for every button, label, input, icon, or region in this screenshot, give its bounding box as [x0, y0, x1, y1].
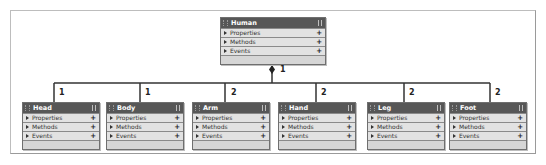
add-icon[interactable]: +	[174, 123, 180, 131]
events-row[interactable]: Events+	[368, 131, 444, 140]
row-label: Events	[230, 47, 250, 54]
methods-row[interactable]: Methods+	[107, 122, 183, 131]
expand-triangle-icon[interactable]	[453, 116, 456, 120]
class-header[interactable]: Body	[107, 103, 183, 113]
events-row[interactable]: Events+	[279, 131, 355, 140]
add-icon[interactable]: +	[316, 47, 322, 55]
grip-icon[interactable]	[370, 105, 375, 111]
events-row[interactable]: Events+	[107, 131, 183, 140]
expand-triangle-icon[interactable]	[196, 116, 199, 120]
add-icon[interactable]: +	[90, 123, 96, 131]
expand-triangle-icon[interactable]	[224, 49, 227, 53]
row-label: Events	[377, 132, 397, 139]
events-row[interactable]: Events+	[23, 131, 99, 140]
class-header[interactable]: Arm	[193, 103, 269, 113]
menu-icon[interactable]	[176, 105, 180, 111]
multiplicity-label-root: 1	[280, 65, 286, 75]
expand-triangle-icon[interactable]	[371, 134, 374, 138]
add-icon[interactable]: +	[260, 132, 266, 140]
add-icon[interactable]: +	[517, 123, 523, 131]
add-icon[interactable]: +	[90, 114, 96, 122]
expand-triangle-icon[interactable]	[224, 40, 227, 44]
add-icon[interactable]: +	[435, 132, 441, 140]
events-row[interactable]: Events+	[450, 131, 526, 140]
menu-icon[interactable]	[437, 105, 441, 111]
row-label: Events	[288, 132, 308, 139]
class-box-arm[interactable]: Arm Properties+ Methods+ Events+	[192, 102, 270, 150]
class-name: Foot	[460, 104, 476, 112]
aggregation-diamond-icon	[269, 65, 275, 74]
add-icon[interactable]: +	[346, 123, 352, 131]
expand-triangle-icon[interactable]	[371, 125, 374, 129]
expand-triangle-icon[interactable]	[453, 134, 456, 138]
multiplicity-label-head: 1	[59, 88, 65, 98]
menu-icon[interactable]	[519, 105, 523, 111]
methods-row[interactable]: Methods+	[450, 122, 526, 131]
methods-row[interactable]: Methods+	[193, 122, 269, 131]
properties-row[interactable]: Properties+	[107, 113, 183, 122]
add-icon[interactable]: +	[346, 132, 352, 140]
expand-triangle-icon[interactable]	[196, 125, 199, 129]
add-icon[interactable]: +	[260, 114, 266, 122]
methods-row[interactable]: Methods+	[221, 37, 325, 46]
add-icon[interactable]: +	[90, 132, 96, 140]
expand-triangle-icon[interactable]	[453, 125, 456, 129]
grip-icon[interactable]	[452, 105, 457, 111]
expand-triangle-icon[interactable]	[110, 125, 113, 129]
add-icon[interactable]: +	[174, 132, 180, 140]
properties-row[interactable]: Properties+	[279, 113, 355, 122]
expand-triangle-icon[interactable]	[26, 134, 29, 138]
grip-icon[interactable]	[223, 20, 228, 26]
methods-row[interactable]: Methods+	[368, 122, 444, 131]
add-icon[interactable]: +	[517, 114, 523, 122]
grip-icon[interactable]	[195, 105, 200, 111]
properties-row[interactable]: Properties+	[23, 113, 99, 122]
menu-icon[interactable]	[318, 20, 322, 26]
add-icon[interactable]: +	[435, 114, 441, 122]
class-box-leg[interactable]: Leg Properties+ Methods+ Events+	[367, 102, 445, 150]
grip-icon[interactable]	[25, 105, 30, 111]
class-header[interactable]: Foot	[450, 103, 526, 113]
add-icon[interactable]: +	[346, 114, 352, 122]
events-row[interactable]: Events+	[221, 46, 325, 55]
expand-triangle-icon[interactable]	[110, 116, 113, 120]
properties-row[interactable]: Properties+	[450, 113, 526, 122]
class-name: Leg	[378, 104, 391, 112]
add-icon[interactable]: +	[316, 29, 322, 37]
menu-icon[interactable]	[348, 105, 352, 111]
class-header[interactable]: Human	[221, 18, 325, 28]
properties-row[interactable]: Properties+	[193, 113, 269, 122]
expand-triangle-icon[interactable]	[26, 125, 29, 129]
expand-triangle-icon[interactable]	[282, 125, 285, 129]
expand-triangle-icon[interactable]	[224, 31, 227, 35]
events-row[interactable]: Events+	[193, 131, 269, 140]
class-header[interactable]: Leg	[368, 103, 444, 113]
add-icon[interactable]: +	[435, 123, 441, 131]
grip-icon[interactable]	[281, 105, 286, 111]
expand-triangle-icon[interactable]	[196, 134, 199, 138]
add-icon[interactable]: +	[316, 38, 322, 46]
add-icon[interactable]: +	[517, 132, 523, 140]
class-box-head[interactable]: Head Properties+ Methods+ Events+	[22, 102, 100, 150]
expand-triangle-icon[interactable]	[26, 116, 29, 120]
add-icon[interactable]: +	[174, 114, 180, 122]
menu-icon[interactable]	[92, 105, 96, 111]
expand-triangle-icon[interactable]	[282, 116, 285, 120]
class-box-hand[interactable]: Hand Properties+ Methods+ Events+	[278, 102, 356, 150]
class-header[interactable]: Head	[23, 103, 99, 113]
properties-row[interactable]: Properties+	[221, 28, 325, 37]
methods-row[interactable]: Methods+	[279, 122, 355, 131]
grip-icon[interactable]	[109, 105, 114, 111]
methods-row[interactable]: Methods+	[23, 122, 99, 131]
class-box-body[interactable]: Body Properties+ Methods+ Events+	[106, 102, 184, 150]
class-box-foot[interactable]: Foot Properties+ Methods+ Events+	[449, 102, 527, 150]
add-icon[interactable]: +	[260, 123, 266, 131]
expand-triangle-icon[interactable]	[371, 116, 374, 120]
expand-triangle-icon[interactable]	[282, 134, 285, 138]
expand-triangle-icon[interactable]	[110, 134, 113, 138]
menu-icon[interactable]	[262, 105, 266, 111]
properties-row[interactable]: Properties+	[368, 113, 444, 122]
class-box-human[interactable]: Human Properties+ Methods+ Events+	[220, 17, 326, 65]
row-label: Properties	[32, 114, 62, 121]
class-header[interactable]: Hand	[279, 103, 355, 113]
